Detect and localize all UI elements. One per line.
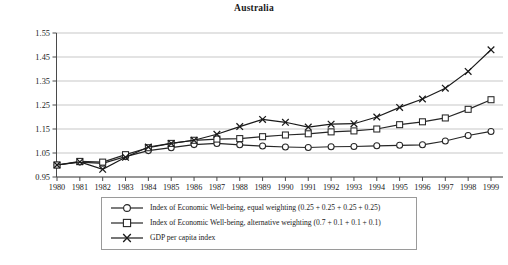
data-point-circle bbox=[442, 138, 448, 144]
y-tick-label: 1.05 bbox=[35, 149, 50, 158]
x-tick-label: 1991 bbox=[300, 183, 316, 190]
y-tick-label: 1.45 bbox=[35, 53, 50, 62]
data-point-circle bbox=[397, 142, 403, 148]
x-tick-label: 1980 bbox=[49, 183, 65, 190]
data-point-square bbox=[237, 136, 243, 142]
data-point-square bbox=[282, 132, 288, 138]
y-tick-label: 1.15 bbox=[35, 125, 50, 134]
chart-title: Australia bbox=[0, 3, 508, 13]
series-2 bbox=[54, 97, 494, 168]
legend-marker-cross-icon bbox=[110, 231, 144, 245]
legend-label-equal-weighting: Index of Economic Well-being, equal weig… bbox=[150, 204, 380, 212]
data-point-square bbox=[305, 131, 311, 137]
legend-item-alternative-weighting: Index of Economic Well-being, alternativ… bbox=[110, 215, 381, 231]
chart-figure: Australia 0.951.051.151.251.351.451.55 1… bbox=[0, 0, 508, 265]
x-tick-label: 1992 bbox=[323, 183, 339, 190]
x-tick-label: 1983 bbox=[117, 183, 133, 190]
data-point-circle bbox=[419, 142, 425, 148]
data-point-circle bbox=[351, 144, 357, 150]
x-tick-label: 1999 bbox=[483, 183, 499, 190]
data-point-circle bbox=[488, 128, 494, 134]
x-tick-label: 1989 bbox=[254, 183, 270, 190]
y-tick-label: 1.35 bbox=[35, 77, 50, 86]
data-point-circle bbox=[465, 132, 471, 138]
data-point-square bbox=[351, 128, 357, 134]
data-point-circle bbox=[237, 142, 243, 148]
series-3 bbox=[54, 47, 495, 173]
legend-marker-circle-icon bbox=[110, 201, 144, 215]
x-tick-label: 1982 bbox=[94, 183, 110, 190]
legend-label-gdp-per-capita: GDP per capita index bbox=[150, 234, 215, 242]
y-tick-label: 1.25 bbox=[35, 101, 50, 110]
y-axis-tick-labels: 0.951.051.151.251.351.451.55 bbox=[35, 29, 50, 182]
x-tick-label: 1981 bbox=[72, 183, 88, 190]
x-axis-ticks bbox=[57, 177, 491, 181]
data-point-square bbox=[260, 134, 266, 140]
y-axis-ticks bbox=[53, 33, 57, 177]
x-tick-label: 1985 bbox=[163, 183, 179, 190]
data-point-square bbox=[442, 115, 448, 121]
data-point-circle bbox=[260, 143, 266, 149]
x-tick-label: 1997 bbox=[437, 183, 453, 190]
legend-item-equal-weighting: Index of Economic Well-being, equal weig… bbox=[110, 200, 380, 216]
x-tick-label: 1986 bbox=[186, 183, 202, 190]
x-tick-label: 1994 bbox=[369, 183, 385, 190]
x-tick-label: 1996 bbox=[414, 183, 430, 190]
y-tick-label: 1.55 bbox=[35, 29, 50, 38]
y-tick-label: 0.95 bbox=[35, 173, 50, 182]
x-tick-label: 1987 bbox=[209, 183, 225, 190]
data-point-square bbox=[397, 122, 403, 128]
series-1 bbox=[54, 128, 494, 168]
legend-item-gdp-per-capita: GDP per capita index bbox=[110, 230, 215, 246]
data-point-square bbox=[328, 129, 334, 135]
data-point-square bbox=[488, 97, 494, 103]
data-point-circle bbox=[374, 143, 380, 149]
data-point-square bbox=[374, 126, 380, 132]
data-point-circle bbox=[328, 144, 334, 150]
data-point-circle bbox=[282, 144, 288, 150]
chart-legend: Index of Economic Well-being, equal weig… bbox=[101, 197, 417, 250]
plot-area: 0.951.051.151.251.351.451.55 19801981198… bbox=[0, 18, 508, 190]
series-layer bbox=[54, 47, 495, 173]
data-point-square bbox=[465, 106, 471, 112]
data-point-square bbox=[100, 159, 106, 165]
data-point-circle bbox=[305, 144, 311, 150]
legend-marker-square-icon bbox=[110, 216, 144, 230]
x-tick-label: 1990 bbox=[277, 183, 293, 190]
x-tick-label: 1984 bbox=[140, 183, 156, 190]
data-point-square bbox=[419, 119, 425, 125]
x-tick-label: 1988 bbox=[232, 183, 248, 190]
legend-label-alternative-weighting: Index of Economic Well-being, alternativ… bbox=[150, 219, 381, 227]
plot-svg: 0.951.051.151.251.351.451.55 19801981198… bbox=[0, 18, 508, 190]
x-tick-label: 1995 bbox=[391, 183, 407, 190]
x-tick-label: 1993 bbox=[346, 183, 362, 190]
x-tick-label: 1998 bbox=[460, 183, 476, 190]
x-axis-tick-labels: 1980198119821983198419851986198719881989… bbox=[49, 183, 499, 190]
